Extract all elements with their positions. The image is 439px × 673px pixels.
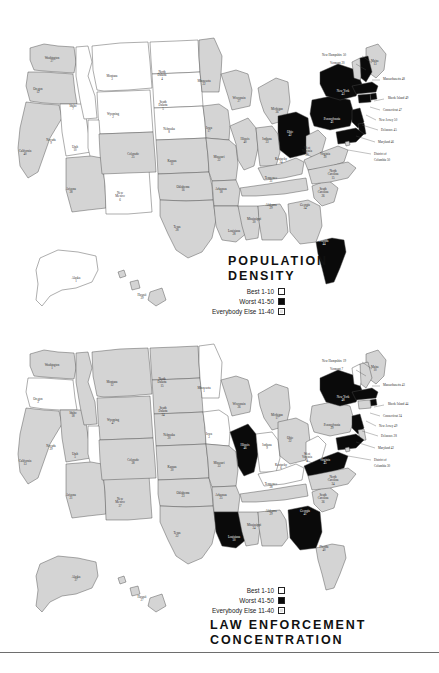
callout-label-columbia: Columbia 30 <box>374 464 391 468</box>
state-rank-value: 11 <box>171 162 174 166</box>
state-shape-nebraska <box>154 106 206 140</box>
callout-label-rhode-island: Rhode Island 49 <box>388 96 409 100</box>
state-rank-value: 37 <box>74 578 78 582</box>
state-rank-value: 29 <box>330 426 334 430</box>
state-label-hawaii: Hawaii39 <box>138 293 147 300</box>
legend-label-best: Best 1-10 <box>247 587 274 594</box>
state-shape-arizona <box>66 462 106 518</box>
callout-leader-line <box>348 456 371 460</box>
state-rank-value: 41 <box>303 512 307 516</box>
state-rank-value: 25 <box>131 155 135 159</box>
state-rank-value: 39 <box>49 447 53 451</box>
callout-label-new-hampshire: New Hampshire 50 <box>322 53 347 57</box>
state-rank-value: 37 <box>118 504 122 508</box>
state-shape-district-of-columbia <box>345 141 350 146</box>
state-rank-value: 38 <box>269 485 273 489</box>
state-rank-value: 31 <box>269 179 273 183</box>
state-rank-value: 20 <box>167 436 171 440</box>
state-shape-district-of-columbia <box>345 447 350 452</box>
state-rank-value: 9 <box>50 141 52 145</box>
state-rank-value: 25 <box>219 496 223 500</box>
map-panel-population-density: Washington27Oregon12California40Nevada9I… <box>0 0 439 336</box>
state-rank-value: 29 <box>269 206 273 210</box>
callout-label-massachusetts: Massachusetts 48 <box>383 77 405 81</box>
state-rank-value: 22 <box>175 534 179 538</box>
callout-label-maryland: Maryland 42 <box>378 446 394 450</box>
state-shape-alabama <box>258 510 288 546</box>
callout-leader-line <box>370 107 380 110</box>
state-rank-value: 13 <box>373 62 377 66</box>
state-rank-value: 18 <box>219 190 223 194</box>
state-shape-montana <box>92 42 152 91</box>
state-rank-value: 39 <box>140 296 144 300</box>
legend-swatch-worst <box>278 298 285 305</box>
state-rank-value: 26 <box>237 405 241 409</box>
footer-divider <box>0 652 439 653</box>
callout-leader-line <box>366 115 376 120</box>
state-rank-value: 34 <box>331 482 335 486</box>
legend-row-middle: Everybody Else 11-40 <box>212 306 285 316</box>
callout-leader-line <box>348 150 371 154</box>
state-rank-value: 12 <box>36 90 40 94</box>
state-shape-rhode-island <box>370 399 377 406</box>
callout-label-maryland: Maryland 46 <box>378 140 394 144</box>
state-shape-kansas <box>156 138 209 174</box>
callout-leader-line <box>370 413 380 416</box>
state-rank-value: 10 <box>73 148 77 152</box>
callout-label-delaware: Delaware 28 <box>381 434 397 438</box>
state-rank-value: 30 <box>170 468 174 472</box>
state-shape-alabama <box>258 204 288 240</box>
callout-label-new-hampshire: New Hampshire 19 <box>322 359 347 363</box>
state-shape-pennsylvania <box>310 402 354 436</box>
state-shape-connecticut <box>358 400 371 409</box>
legend-row-worst: Worst 41-50 <box>212 595 285 605</box>
callout-label-connecticut: Connecticut 47 <box>383 108 402 112</box>
state-rank-value: 46 <box>243 446 247 450</box>
state-shape-kansas <box>156 444 209 480</box>
state-shape-north-dakota <box>150 346 200 380</box>
state-rank-value: 18 <box>71 414 75 418</box>
legend-swatch-middle <box>278 308 285 315</box>
state-rank-value: 24 <box>252 526 256 530</box>
callout-label-rhode-island: Rhode Island 44 <box>388 402 409 406</box>
legend-row-best: Best 1-10 <box>212 585 285 595</box>
state-shape-missouri <box>206 444 238 487</box>
legend-label-middle: Everybody Else 11-40 <box>212 308 274 315</box>
state-rank-value: 28 <box>232 232 236 236</box>
legend-swatch-worst <box>278 597 285 604</box>
state-rank-value: 36 <box>321 500 325 504</box>
state-shape-tennessee <box>240 178 308 196</box>
state-rank-value: 27 <box>140 598 144 602</box>
state-rank-value: 42 <box>288 133 292 137</box>
state-shape-hawaii <box>118 576 166 612</box>
state-rank-value: 33 <box>265 140 269 144</box>
state-shape-pennsylvania <box>310 96 354 130</box>
page-root: Washington27Oregon12California40Nevada9I… <box>0 0 439 673</box>
state-shape-alaska <box>36 556 98 612</box>
state-rank-value: 30 <box>252 220 256 224</box>
legend-label-worst: Worst 41-50 <box>239 298 274 305</box>
state-rank-value: 50 <box>232 538 236 542</box>
map-title-population-density: POPULATION DENSITY <box>228 254 328 285</box>
state-rank-value: 26 <box>321 194 325 198</box>
state-rank-value: 38 <box>69 190 73 194</box>
state-rank-value: 22 <box>202 82 206 86</box>
state-rank-value: 33 <box>217 464 221 468</box>
state-rank-value: 44 <box>322 242 326 246</box>
state-shape-texas <box>160 200 216 258</box>
map-title-line1: POPULATION <box>228 254 328 269</box>
callout-label-connecticut: Connecticut 24 <box>383 414 402 418</box>
state-shape-arkansas <box>212 180 240 206</box>
state-rank-value: 34 <box>279 160 283 164</box>
legend-swatch-middle <box>278 607 285 614</box>
state-rank-value: 48 <box>341 398 345 402</box>
callout-label-district-of: District of <box>374 152 388 156</box>
map-title-line2: DENSITY <box>228 269 328 284</box>
legend-label-middle: Everybody Else 11-40 <box>212 607 274 614</box>
state-label-tennessee: Tennessee38 <box>265 482 278 489</box>
callout-label-new-jersey: New Jersey 50 <box>379 118 398 122</box>
state-rank-value: 22 <box>288 439 292 443</box>
state-rank-value: 34 <box>161 413 165 417</box>
legend-row-worst: Worst 41-50 <box>212 296 285 306</box>
callout-label-vermont: Vermont 20 <box>330 61 345 65</box>
